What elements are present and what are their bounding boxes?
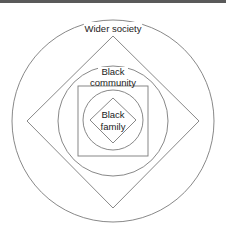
- black-family-label-line2: family: [101, 121, 126, 132]
- black-community-label-line1: Black: [101, 66, 124, 77]
- nested-society-diagram: Wider society Black community Black fami…: [0, 0, 226, 232]
- black-community-label-line2: community: [90, 77, 136, 88]
- inner-circle: [83, 90, 143, 150]
- wider-society-label: Wider society: [84, 23, 141, 34]
- black-family-label-line1: Black: [101, 109, 124, 120]
